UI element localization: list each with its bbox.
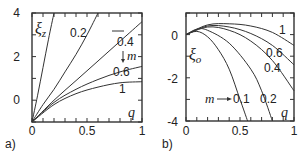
- figure: 4 2 0 0 0.5 1 ξz q 0.2 0.4 0.6 1 m a) 0 …: [0, 0, 306, 154]
- panel-b: 0 -2 -4 0 0.5 1 ξo q 1 0.6 0.4 0.2 0.1 m…: [162, 13, 298, 151]
- parameter-label: m: [205, 91, 214, 106]
- x-axis-label: q: [128, 105, 135, 120]
- curve-label: 0.1: [233, 92, 250, 106]
- x-axis-label: q: [281, 105, 288, 120]
- curve-label: 0.6: [113, 65, 130, 79]
- x-tick-label: 0: [29, 124, 36, 138]
- x-tick-label: 1: [291, 124, 298, 138]
- x-tick-label: 0: [183, 124, 190, 138]
- curve-m=0.2: [186, 29, 272, 121]
- curve-label: 0.4: [264, 61, 281, 75]
- curve-label: 0.2: [260, 92, 277, 106]
- y-tick-label: 0: [171, 29, 178, 43]
- panel-label: a): [5, 137, 16, 151]
- y-axis-label: ξz: [35, 20, 47, 39]
- y-tick-label: -4: [167, 115, 178, 129]
- parameter-arrow-down-icon: [121, 51, 125, 63]
- curve-m=0.1: [186, 31, 248, 121]
- curve-label: 0.4: [117, 35, 134, 49]
- y-tick-label: 0: [13, 93, 20, 107]
- x-tick-label: 0.5: [79, 124, 96, 138]
- curve-label: 1: [279, 23, 286, 37]
- y-tick-label: 2: [13, 50, 20, 64]
- curve-label: 0.6: [266, 46, 283, 60]
- parameter-label: m: [127, 48, 136, 63]
- y-tick-label: -2: [167, 72, 178, 86]
- x-tick-label: 1: [139, 124, 146, 138]
- parameter-arrow-right-icon: [217, 97, 232, 101]
- y-axis-label: ξo: [189, 46, 202, 65]
- curve-label: 1: [119, 82, 126, 96]
- y-tick-label: 4: [13, 6, 20, 20]
- panel-a: 4 2 0 0 0.5 1 ξz q 0.2 0.4 0.6 1 m a): [5, 6, 146, 151]
- x-tick-label: 0.5: [232, 124, 249, 138]
- curve-label: 0.2: [70, 26, 87, 40]
- panel-label: b): [162, 137, 173, 151]
